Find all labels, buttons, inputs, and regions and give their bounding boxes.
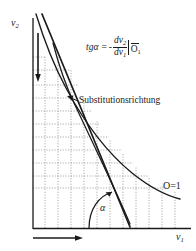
formula-evaluated-at-subscript: 1 [138,48,141,55]
x-axis-label: v1 [176,232,184,243]
y-axis-label: v2 [11,18,19,29]
substitution-direction-label: Substitutionsrichtung [79,96,160,106]
formula-numerator-subscript: 2 [123,39,126,46]
formula-fraction: dv2 dv1 [113,36,127,59]
formula-denominator: dv1 [113,48,127,58]
slope-formula: tgα = - dv2 dv1 O1 [86,36,141,59]
formula-denominator-subscript: 1 [123,51,126,58]
formula-evaluation-bar [128,40,129,55]
y-axis-label-subscript: 2 [15,22,18,29]
formula-denominator-text: dv [114,47,123,57]
formula-numerator: dv2 [113,36,127,46]
formula-evaluation: O1 [127,40,141,55]
x-axis-label-subscript: 1 [180,236,183,243]
formula-numerator-text: dv [114,35,123,45]
formula-evaluated-at-text: O [131,44,138,54]
angle-label: α [100,203,105,213]
figure-container: v2 v1 O=1 Substitutionsrichtung α tgα = … [0,0,196,251]
formula-equals: = [101,42,106,52]
formula-sign: - [109,42,112,52]
isoquant-label: O=1 [163,181,181,191]
formula-lhs: tgα [86,42,98,52]
formula-evaluated-at: O1 [131,43,141,55]
downward-arrow [35,33,41,82]
rightward-arrow [33,235,83,241]
